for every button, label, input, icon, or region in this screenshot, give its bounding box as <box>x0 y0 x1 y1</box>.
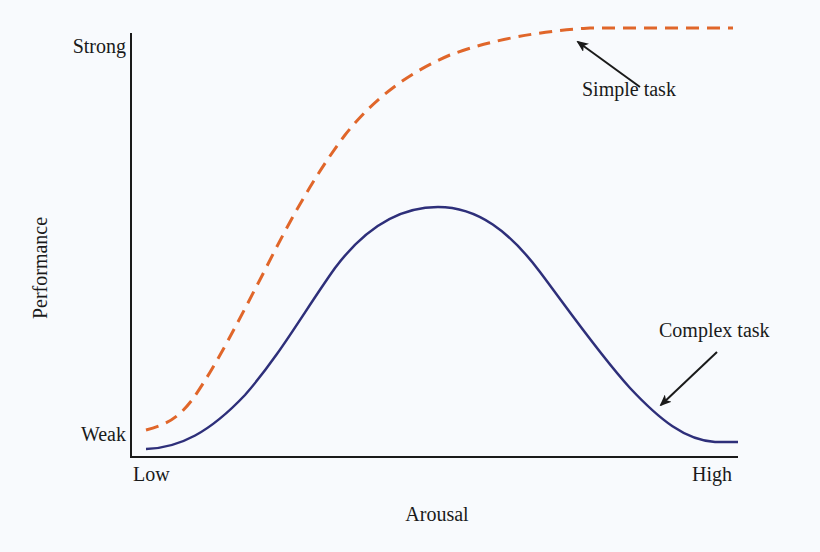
chart-figure: Strong Weak Low High Arousal Performance… <box>0 0 820 552</box>
x-tick-high: High <box>692 464 732 484</box>
y-tick-strong: Strong <box>73 36 126 56</box>
complex-task-label: Complex task <box>659 320 770 340</box>
complex-task-curve <box>146 207 738 449</box>
y-axis-title: Performance <box>30 217 50 319</box>
y-tick-weak: Weak <box>81 424 126 444</box>
simple-task-label: Simple task <box>582 79 676 99</box>
x-tick-low: Low <box>133 464 170 484</box>
x-axis-title: Arousal <box>0 504 820 524</box>
complex-task-arrow <box>661 352 717 405</box>
